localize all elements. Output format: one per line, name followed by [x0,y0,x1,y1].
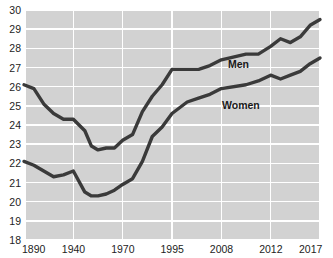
line-chart: Men Women 30292827262524232221201918 189… [0,0,333,258]
y-axis-tick-label: 26 [0,82,21,92]
chart-title-cutoff [23,0,103,1]
series-lines [24,10,320,240]
y-axis: 30292827262524232221201918 [0,10,21,240]
y-axis-tick-label: 20 [0,197,21,207]
series-line-men [24,20,320,150]
x-axis: 1890194019701995200820122017 [0,243,333,257]
x-axis-tick-label: 1970 [111,243,134,255]
y-axis-tick-label: 21 [0,178,21,188]
x-axis-tick-label: 2012 [259,243,282,255]
y-axis-tick-label: 19 [0,216,21,226]
y-axis-tick-label: 25 [0,101,21,111]
y-axis-tick-label: 24 [0,120,21,130]
y-axis-tick-label: 29 [0,24,21,34]
series-label-men: Men [228,58,249,70]
series-label-women: Women [222,99,260,111]
y-axis-tick-label: 22 [0,158,21,168]
x-axis-tick-label: 1890 [22,243,45,255]
x-axis-tick-label: 1940 [62,243,85,255]
series-line-women [24,58,320,196]
y-axis-tick-label: 28 [0,43,21,53]
plot-area: Men Women [24,10,320,240]
y-axis-tick-label: 30 [0,5,21,15]
x-axis-tick-label: 2008 [210,243,233,255]
x-axis-tick-label: 2017 [299,243,322,255]
y-axis-tick-label: 23 [0,139,21,149]
x-axis-tick-label: 1995 [161,243,184,255]
y-axis-tick-label: 27 [0,63,21,73]
